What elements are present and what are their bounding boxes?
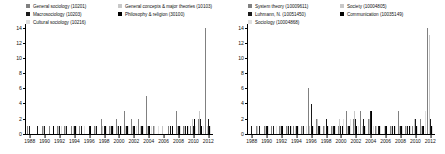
left-plot-area: 02468101214 1988199019921994199619982000… [25, 24, 213, 135]
x-tick-label: 1996 [84, 139, 95, 144]
bar [350, 119, 351, 134]
x-tick-mark [119, 135, 120, 138]
bar [106, 126, 107, 134]
right-chart-legend: System theory (10009611) Society (100048… [248, 2, 440, 26]
x-tick-mark [208, 135, 209, 138]
bar [180, 126, 181, 134]
legend-label: Cultural sociology (10216) [33, 20, 86, 25]
bar [320, 126, 321, 134]
right-plot-area: 02468101214 1988199019921994199619982000… [247, 24, 435, 135]
bar [259, 126, 260, 134]
x-tick-mark [45, 135, 46, 138]
bar [343, 119, 344, 134]
right-chart-panel: System theory (10009611) Society (100048… [222, 0, 445, 154]
bar [61, 126, 62, 134]
x-tick-label: 1992 [276, 139, 287, 144]
legend-swatch-icon [26, 4, 30, 8]
bar [425, 111, 426, 134]
legend-item: General concepts & major theories (10103… [118, 2, 218, 10]
bar [205, 28, 206, 134]
x-tick-label: 1990 [39, 139, 50, 144]
bar [128, 126, 129, 134]
bar [162, 126, 163, 134]
bar [81, 126, 82, 134]
x-tick-label: 2008 [395, 139, 406, 144]
bar [271, 126, 272, 134]
y-tick-label: 8 [226, 71, 244, 76]
x-tick-mark [326, 135, 327, 138]
bar [113, 126, 114, 134]
bar [273, 126, 274, 134]
legend-label: Communication (10035149) [347, 12, 403, 17]
bar [380, 126, 381, 134]
y-tick-label: 8 [4, 71, 22, 76]
x-tick-mark [296, 135, 297, 138]
legend-label: General sociology (10201) [33, 4, 86, 9]
x-tick-mark [401, 135, 402, 138]
y-tick-label: 4 [4, 101, 22, 106]
bar [136, 126, 137, 134]
x-tick-mark [193, 135, 194, 138]
x-tick-mark [59, 135, 60, 138]
bar [303, 126, 304, 134]
bar [298, 126, 299, 134]
x-tick-label: 1998 [99, 139, 110, 144]
x-tick-label: 2004 [143, 139, 154, 144]
bar [395, 126, 396, 134]
x-tick-label: 2006 [158, 139, 169, 144]
x-tick-mark [341, 135, 342, 138]
x-tick-mark [134, 135, 135, 138]
x-tick-mark [415, 135, 416, 138]
bar [276, 126, 277, 134]
bar [96, 126, 97, 134]
y-tick-label: 10 [226, 56, 244, 61]
y-tick-label: 6 [4, 86, 22, 91]
bar-group [248, 24, 435, 134]
bar-group [26, 24, 213, 134]
bar [53, 126, 54, 134]
x-tick-mark [311, 135, 312, 138]
x-tick-mark [89, 135, 90, 138]
x-tick-label: 2008 [173, 139, 184, 144]
bar [203, 126, 204, 134]
bar [79, 126, 80, 134]
legend-item: Philosophy & religion (30100) [118, 10, 218, 18]
legend-swatch-icon [26, 12, 30, 16]
legend-item: System theory (10009611) [248, 2, 340, 10]
x-tick-label: 1996 [306, 139, 317, 144]
legend-label: Philosophy & religion (30100) [125, 12, 184, 17]
bar [365, 126, 366, 134]
legend-item: Macrosociology (10203) [26, 10, 118, 18]
legend-item: General sociology (10201) [26, 2, 118, 10]
bar [417, 126, 418, 134]
bar [84, 126, 85, 134]
legend-label: System theory (10009611) [255, 4, 308, 9]
legend-label: Society (10004805) [347, 4, 386, 9]
x-tick-label: 1990 [261, 139, 272, 144]
bar [432, 126, 433, 134]
x-tick-label: 2010 [188, 139, 199, 144]
legend-swatch-icon [248, 20, 252, 24]
bar [282, 126, 283, 134]
bar [210, 126, 211, 134]
bar [386, 126, 387, 134]
bar [66, 126, 67, 134]
bar [59, 126, 60, 134]
bar [76, 126, 77, 134]
legend-item: Luhmann, N. (10051450) [248, 10, 340, 18]
bar [313, 126, 314, 134]
x-tick-mark [149, 135, 150, 138]
left-chart-legend: General sociology (10201) General concep… [26, 2, 218, 26]
bar [251, 126, 252, 134]
legend-item: Communication (10035149) [340, 10, 440, 18]
x-tick-label: 2002 [128, 139, 139, 144]
bar [328, 126, 329, 134]
bar [168, 126, 169, 134]
x-tick-label: 1992 [54, 139, 65, 144]
x-tick-label: 2006 [380, 139, 391, 144]
x-tick-label: 2000 [114, 139, 125, 144]
y-tick-label: 6 [226, 86, 244, 91]
dual-bar-chart-figure: General sociology (10201) General concep… [0, 0, 445, 154]
legend-item: Sociology (10004868) [248, 18, 340, 26]
x-tick-mark [179, 135, 180, 138]
